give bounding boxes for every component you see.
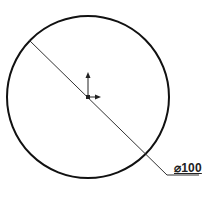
diameter-dimension-label[interactable]: ⌀100 (174, 161, 202, 175)
diameter-dimension-leader[interactable] (29, 40, 199, 175)
origin-axes-icon (86, 72, 102, 100)
